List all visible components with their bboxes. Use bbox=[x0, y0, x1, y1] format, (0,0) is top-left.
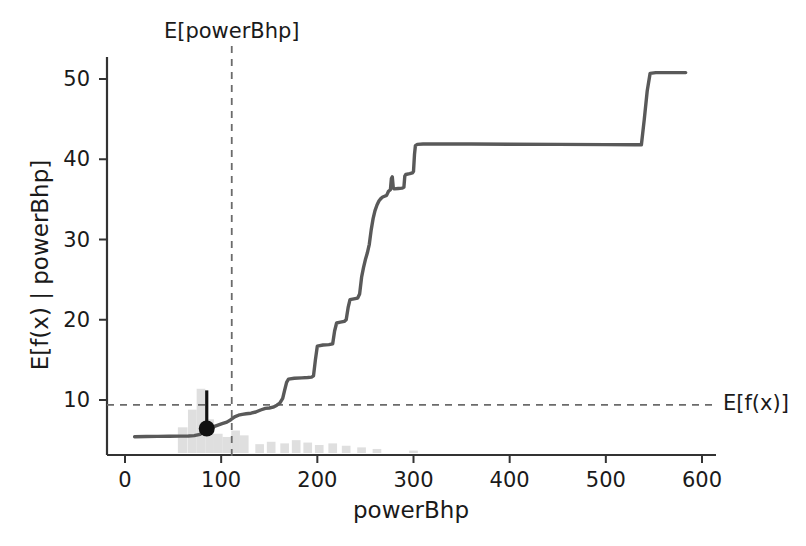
rug-histogram-group bbox=[178, 389, 418, 453]
rug-bar bbox=[214, 434, 223, 453]
y-tick-label: 40 bbox=[40, 147, 90, 171]
x-tick-label: 500 bbox=[586, 468, 626, 492]
x-tick-label: 400 bbox=[490, 468, 530, 492]
axes-group bbox=[99, 57, 716, 463]
y-tick-label: 50 bbox=[40, 67, 90, 91]
y-tick-label: 30 bbox=[40, 228, 90, 252]
x-axis-label: powerBhp bbox=[353, 497, 469, 523]
y-tick-label: 20 bbox=[40, 308, 90, 332]
rug-bar bbox=[223, 437, 232, 453]
y-tick-label: 10 bbox=[40, 388, 90, 412]
rug-bar bbox=[342, 446, 351, 453]
rug-bar bbox=[188, 410, 197, 453]
vline-annotation-label: E[powerBhp] bbox=[164, 19, 300, 43]
rug-bar bbox=[373, 449, 382, 453]
rug-bar bbox=[315, 445, 324, 453]
rug-bar bbox=[303, 443, 312, 453]
x-tick-label: 0 bbox=[118, 468, 131, 492]
pdp-chart-figure: powerBhp E[f(x) | powerBhp] E[powerBhp] … bbox=[0, 0, 806, 546]
y-axis-ticks bbox=[99, 79, 107, 400]
x-tick-label: 100 bbox=[201, 468, 241, 492]
rug-bar bbox=[328, 443, 337, 453]
rug-bar bbox=[280, 443, 289, 453]
rug-bar bbox=[178, 427, 188, 453]
rug-bar bbox=[267, 442, 276, 453]
rug-bar bbox=[255, 444, 264, 453]
rug-bar bbox=[197, 389, 206, 453]
x-tick-label: 200 bbox=[297, 468, 337, 492]
x-axis-ticks bbox=[125, 455, 702, 463]
expected-point-marker bbox=[199, 420, 215, 436]
pdp-curve bbox=[135, 73, 686, 437]
x-tick-label: 300 bbox=[393, 468, 433, 492]
hline-annotation-label: E[f(x)] bbox=[723, 391, 789, 415]
rug-bar bbox=[240, 435, 249, 453]
rug-bar bbox=[409, 451, 418, 453]
x-tick-label: 600 bbox=[682, 468, 722, 492]
rug-bar bbox=[292, 440, 301, 453]
plot-canvas bbox=[0, 0, 806, 546]
rug-bar bbox=[357, 447, 366, 453]
